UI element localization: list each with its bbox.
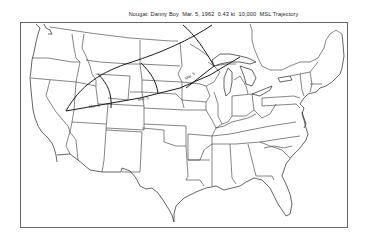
west-coast: [30, 24, 57, 162]
trajectory-label-central: Mar. 5: [137, 95, 150, 102]
gulf-coast: [174, 176, 292, 222]
atlantic-coast: [282, 34, 344, 176]
trajectory-arc-west: [98, 74, 111, 108]
coastline-and-borders: [30, 24, 344, 222]
lake-huron: [240, 66, 256, 86]
mexico-border: [57, 154, 174, 222]
trajectory-arc-central: [141, 63, 158, 93]
canada-border-east: [250, 24, 342, 70]
trajectory-label-west: Mar. 5: [88, 102, 100, 109]
puget-sound: [44, 24, 52, 34]
trajectory-map: Mar. 5 Mar. 5 Mar. 5: [0, 0, 367, 241]
trajectory: [66, 25, 240, 111]
trajectory-label-north: Mar. 5: [184, 70, 197, 81]
canada-border-west: [50, 27, 178, 41]
lake-ontario: [278, 76, 292, 82]
state-borders: [31, 34, 322, 186]
lake-erie: [252, 86, 272, 96]
map-frame: [21, 23, 348, 228]
lake-michigan: [224, 68, 232, 96]
